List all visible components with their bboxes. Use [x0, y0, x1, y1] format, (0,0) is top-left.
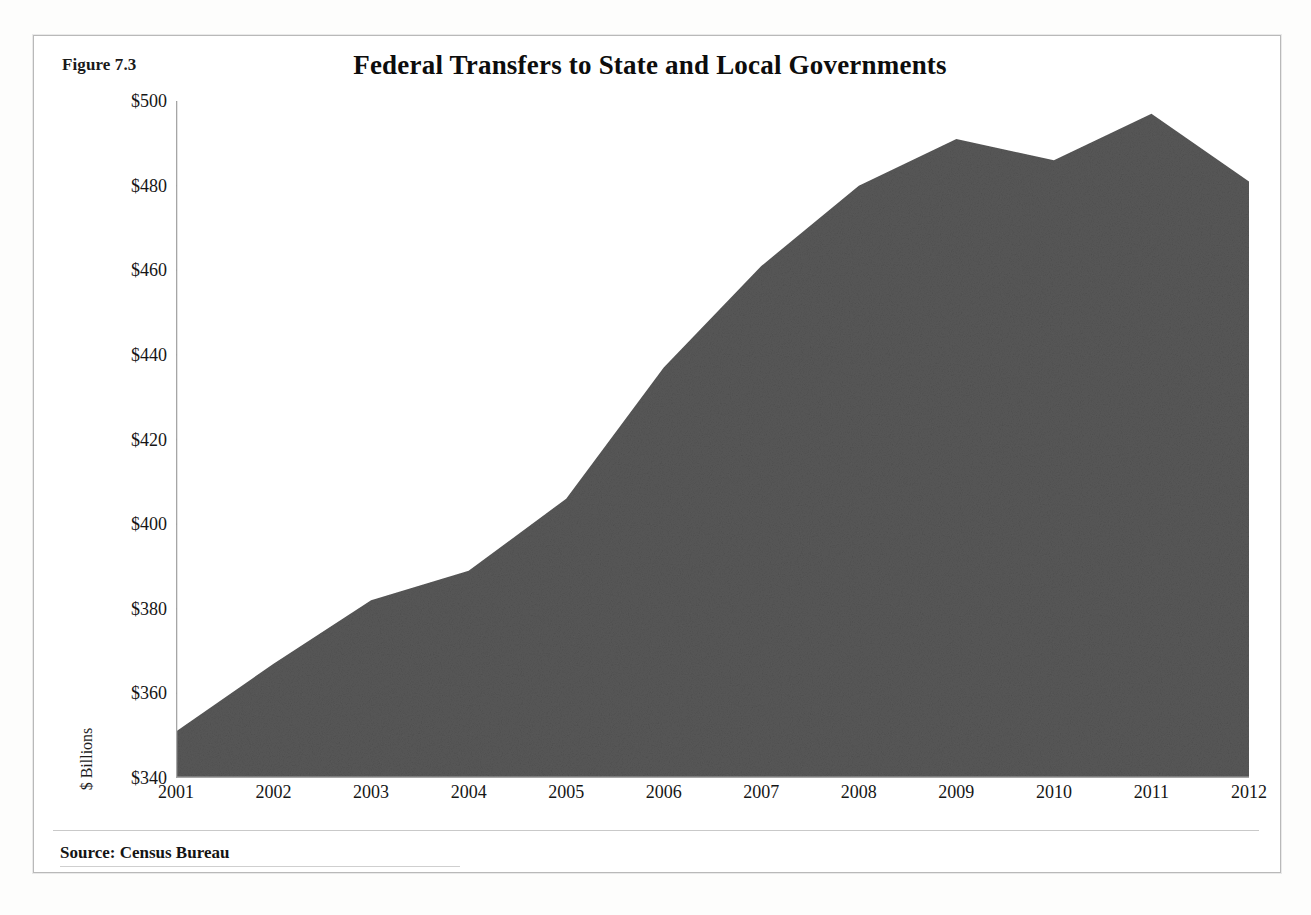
x-axis-tick-label: 2009: [938, 782, 974, 803]
x-axis-tick-label: 2003: [353, 782, 389, 803]
x-axis-tick-label: 2001: [158, 782, 194, 803]
x-axis-tick-label: 2011: [1134, 782, 1169, 803]
x-axis-tick-label: 2004: [451, 782, 487, 803]
plot-area: [176, 101, 1249, 778]
y-axis-tick-label: $360: [131, 683, 167, 704]
y-axis-tick-label: $420: [131, 429, 167, 450]
x-axis-tick-label: 2010: [1036, 782, 1072, 803]
chart-title: Federal Transfers to State and Local Gov…: [300, 50, 1000, 81]
y-axis-tick-label: $500: [131, 91, 167, 112]
x-axis-tick-label: 2002: [256, 782, 292, 803]
figure-page: Figure 7.3 Federal Transfers to State an…: [0, 0, 1311, 915]
x-axis-tick-label: 2006: [646, 782, 682, 803]
x-axis-tick-label: 2005: [548, 782, 584, 803]
x-axis-tick-label: 2008: [841, 782, 877, 803]
y-axis-tick-label: $400: [131, 514, 167, 535]
y-axis-tick-label: $440: [131, 344, 167, 365]
y-axis-title: $ Billions: [78, 699, 96, 819]
area-chart-svg: [176, 101, 1249, 778]
area-series-fill: [176, 114, 1249, 778]
x-axis-tick-label: 2007: [743, 782, 779, 803]
source-note: Source: Census Bureau: [60, 843, 229, 863]
area-series-group: [176, 114, 1249, 778]
y-axis-tick-label: $380: [131, 598, 167, 619]
y-axis-tick-labels: $500$480$460$440$420$400$380$360$340: [95, 0, 167, 915]
y-axis-tick-label: $480: [131, 175, 167, 196]
y-axis-tick-label: $460: [131, 260, 167, 281]
y-axis-title-wrap: $ Billions: [30, 370, 80, 510]
x-axis-tick-label: 2012: [1231, 782, 1267, 803]
source-divider: [53, 830, 1259, 831]
source-underline: [60, 866, 460, 867]
